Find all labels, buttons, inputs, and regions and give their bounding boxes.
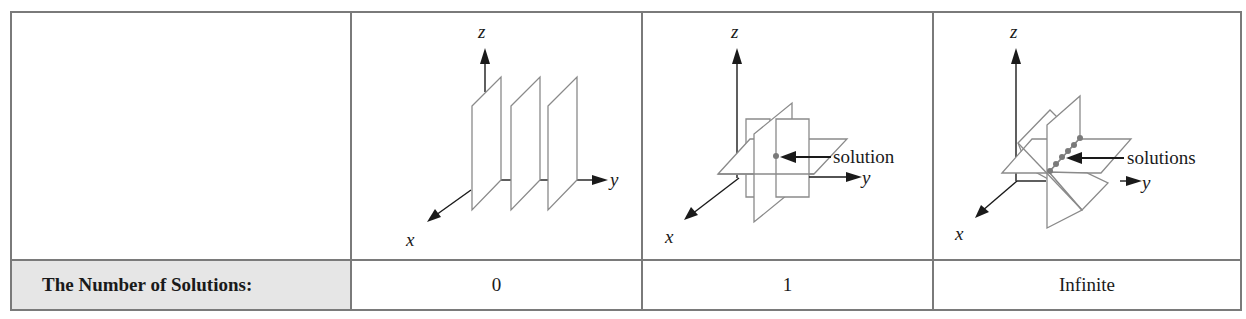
z-axis-label: z	[730, 21, 739, 42]
solutions-annotation: solutions	[1127, 147, 1196, 168]
y-axis-label: y	[1140, 172, 1151, 193]
solution-point	[1065, 148, 1071, 154]
y-axis-label: y	[860, 167, 871, 188]
solution-point	[1053, 161, 1059, 167]
x-axis-label: x	[405, 229, 415, 250]
x-axis	[436, 190, 471, 215]
x-arrowhead-icon	[684, 207, 698, 220]
y-axis-label: y	[608, 169, 619, 190]
diagram-parallel-planes: z x y	[405, 21, 619, 250]
z-arrowhead-icon	[1011, 48, 1021, 64]
x-axis-label: x	[664, 226, 674, 247]
x-axis	[982, 181, 1017, 211]
solution-annotation: solution	[833, 146, 895, 167]
plane-2	[511, 77, 540, 210]
solution-point	[1059, 154, 1065, 160]
x-axis	[692, 178, 739, 214]
x-arrowhead-icon	[427, 209, 441, 222]
z-arrowhead-icon	[480, 48, 490, 64]
plane-1	[472, 77, 501, 210]
y-arrowhead-icon	[846, 172, 862, 182]
diagram-line-of-solutions: z x y solutions	[954, 21, 1196, 244]
x-axis-label: x	[954, 223, 964, 244]
solution-point	[1071, 142, 1077, 148]
diagrams-layer: z x y z x y solution	[0, 0, 1246, 319]
solution-point	[1047, 168, 1053, 174]
y-arrowhead-icon	[592, 175, 608, 185]
z-axis-label: z	[477, 21, 486, 42]
solution-point	[1077, 135, 1083, 141]
plane-3	[548, 77, 577, 210]
solution-point	[773, 153, 779, 159]
z-axis-label: z	[1009, 21, 1018, 42]
diagram-single-point: z x y solution	[664, 21, 895, 247]
z-arrowhead-icon	[732, 48, 742, 64]
y-arrowhead-icon	[1126, 176, 1142, 186]
